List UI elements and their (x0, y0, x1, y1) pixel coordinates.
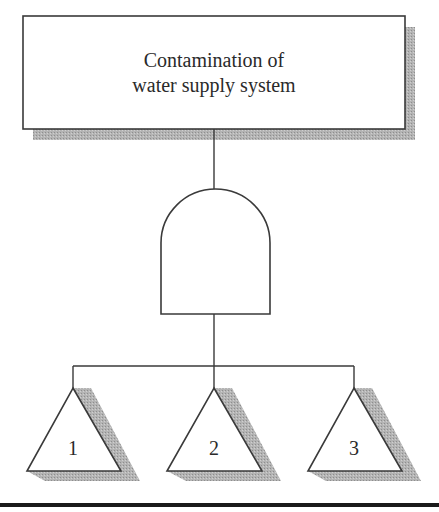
event-2-label: 2 (199, 438, 229, 458)
bottom-rule (0, 503, 439, 507)
top-event-line-2: water supply system (132, 73, 295, 98)
top-event-label: Contamination of water supply system (23, 16, 405, 129)
event-1-label: 1 (58, 438, 88, 458)
top-event-line-1: Contamination of (144, 48, 285, 73)
event-3-label: 3 (339, 438, 369, 458)
and-gate-icon (161, 189, 270, 314)
